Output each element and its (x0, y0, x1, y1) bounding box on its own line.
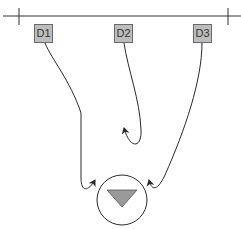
node-d1: D1 (34, 24, 53, 43)
node-d2: D2 (114, 24, 133, 43)
edge-d3-to-target (149, 43, 202, 188)
edge-d1-to-target (45, 43, 95, 189)
node-d3: D3 (193, 24, 212, 43)
edge-d2-loop (124, 43, 141, 144)
target-symbol (97, 175, 147, 225)
timeline-axis (3, 8, 241, 25)
